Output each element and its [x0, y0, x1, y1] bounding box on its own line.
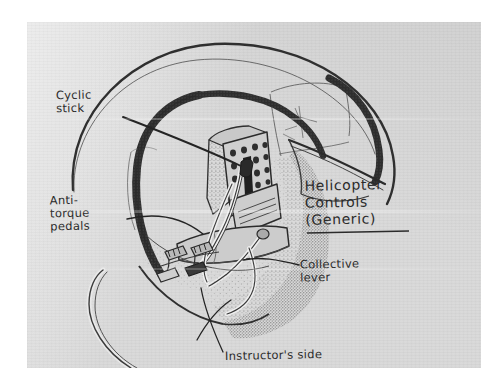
label-cyclic-stick-line2: stick: [56, 101, 84, 116]
figure-title-line3: (Generic): [305, 210, 376, 227]
figure-title-line2: Controls: [305, 194, 368, 211]
label-instructors-side-line1: Instructor's side: [225, 347, 323, 363]
right-door-frame: [329, 78, 380, 182]
label-cyclic-stick: Cyclicstick: [56, 89, 92, 116]
figure-title: HelicopterControls(Generic): [304, 176, 383, 229]
illustration-page: Cyclicstick Anti-torquepedals Helicopter…: [0, 0, 481, 384]
label-anti-torque-pedals: Anti-torquepedals: [50, 194, 91, 234]
helicopter-controls-drawing: [27, 22, 481, 368]
paper-sheet: Cyclicstick Anti-torquepedals Helicopter…: [27, 22, 481, 368]
figure-title-line1: Helicopter: [304, 176, 382, 194]
label-anti-torque-pedals-line3: pedals: [50, 219, 90, 234]
label-collective-lever: Collectivelever: [300, 257, 360, 284]
label-collective-lever-line2: lever: [300, 270, 331, 285]
label-instructors-side: Instructor's side: [225, 348, 323, 363]
landing-skid: [89, 270, 137, 368]
